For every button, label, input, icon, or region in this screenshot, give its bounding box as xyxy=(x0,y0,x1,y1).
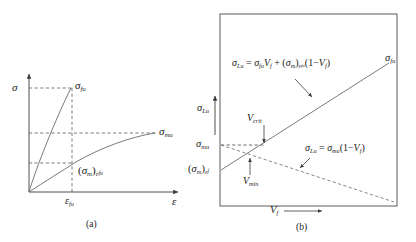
panel-b-vmin-label: Vmin xyxy=(243,176,258,187)
panel-a-caption: (a) xyxy=(86,219,97,229)
panel-a-epsilon-fu-label: εfu xyxy=(65,196,74,207)
panel-b-vcrit-label: Vcrit xyxy=(247,113,262,124)
figure-root: σ σfu σmu (σm)εfu εfu ε (a) σLu σmu (σm)… xyxy=(0,0,416,242)
panel-a xyxy=(29,74,178,192)
panel-b-rule-of-mixtures-equation: σLu = σfuVf + (σm)εfu(1−Vf) xyxy=(232,58,330,69)
panel-a-y-axis-label: σ xyxy=(12,82,17,93)
panel-b-sigma-fu-label: σfu xyxy=(385,53,395,64)
panel-b-matrix-dominated-equation: σLu = σmu(1−Vf) xyxy=(305,143,365,154)
panel-b-caption: (b) xyxy=(296,222,307,232)
panel-b-x-axis-label: Vf xyxy=(270,205,278,216)
panel-a-matrix-curve xyxy=(29,133,155,192)
panel-b-sigma-mu-label: σmu xyxy=(196,139,209,150)
panel-a-sigma-mu-label: σmu xyxy=(159,126,173,139)
panel-a-sigma-m-at-strain-label: (σm)εfu xyxy=(78,165,103,178)
panel-b-matrix-equation-leader-arrow xyxy=(300,158,310,168)
panel-a-x-axis-label: ε xyxy=(172,196,176,207)
panel-a-sigma-fu-label: σfu xyxy=(75,80,86,93)
panel-a-fiber-curve xyxy=(29,88,71,192)
panel-b-sigma-m-at-strain-label: (σm)εf xyxy=(188,164,209,175)
panel-b-y-axis-label: σLu xyxy=(197,103,209,114)
figure-canvas xyxy=(0,0,416,242)
panel-b-equation-leader-arrow xyxy=(295,79,312,97)
